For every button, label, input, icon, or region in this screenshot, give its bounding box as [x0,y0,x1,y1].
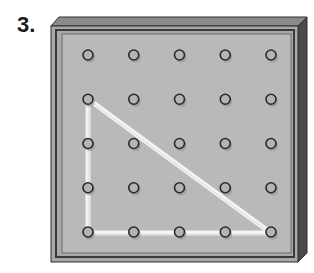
peg [83,94,93,104]
peg [220,227,230,237]
peg [220,50,230,60]
peg [129,50,139,60]
peg [220,94,230,104]
board-right-side [298,17,307,262]
peg [129,227,139,237]
peg [175,183,185,193]
peg [266,50,276,60]
peg [83,227,93,237]
peg [83,139,93,149]
peg [175,50,185,60]
peg [266,94,276,104]
peg [129,94,139,104]
peg [220,139,230,149]
peg [266,139,276,149]
peg [266,227,276,237]
peg [175,139,185,149]
board-top-bevel [51,17,307,26]
peg [220,183,230,193]
peg [83,183,93,193]
peg [175,227,185,237]
peg [129,183,139,193]
geoboard [0,0,314,273]
peg [175,94,185,104]
peg [83,50,93,60]
peg [266,183,276,193]
peg [129,139,139,149]
